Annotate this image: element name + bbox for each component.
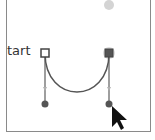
ghost-point-icon xyxy=(104,0,114,10)
end-anchor-point[interactable] xyxy=(105,49,113,57)
end-arrow-icon xyxy=(107,87,111,91)
start-anchor-point[interactable] xyxy=(41,49,49,57)
end-handle-point[interactable] xyxy=(106,101,113,108)
start-handle-point[interactable] xyxy=(42,101,49,108)
bezier-curve[interactable] xyxy=(45,53,109,92)
cursor-arrow-icon xyxy=(112,106,127,130)
start-arrow-icon xyxy=(43,87,47,91)
bezier-diagram xyxy=(0,0,155,140)
